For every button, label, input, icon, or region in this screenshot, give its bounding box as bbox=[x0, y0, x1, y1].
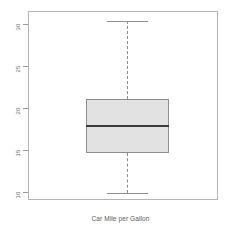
y-tick-label-30: 30 bbox=[15, 23, 21, 30]
y-axis: 30 25 20 15 10 bbox=[0, 0, 28, 235]
plot-frame bbox=[28, 11, 218, 200]
y-tick-label-15: 15 bbox=[15, 149, 21, 156]
median-line bbox=[86, 125, 169, 127]
upper-whisker-line bbox=[127, 21, 128, 99]
upper-whisker-cap bbox=[107, 21, 148, 22]
x-axis-label: Car Mile per Gallon bbox=[0, 215, 241, 223]
y-tick-label-20: 20 bbox=[15, 107, 21, 114]
lower-whisker-cap bbox=[107, 193, 148, 194]
lower-whisker-line bbox=[127, 153, 128, 193]
boxplot-screenshot: 30 25 20 15 10 Car Mile per Gallon bbox=[0, 0, 241, 235]
y-tick-label-25: 25 bbox=[15, 65, 21, 72]
y-tick-label-10: 10 bbox=[15, 191, 21, 198]
